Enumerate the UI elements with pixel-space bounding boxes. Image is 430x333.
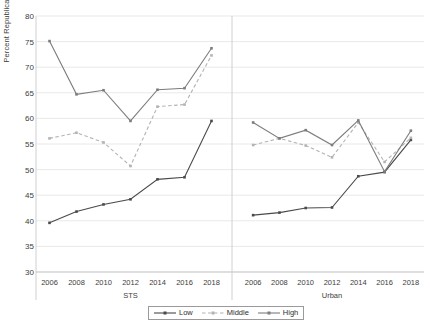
legend-label: Middle bbox=[227, 309, 249, 317]
data-point-middle bbox=[48, 137, 51, 140]
x-axis-tick-label: 2014 bbox=[149, 278, 166, 287]
data-point-low bbox=[331, 206, 334, 209]
data-point-middle bbox=[383, 161, 386, 164]
data-point-high bbox=[75, 93, 78, 96]
data-point-low bbox=[102, 203, 105, 206]
x-axis-tick-label: 2012 bbox=[324, 278, 341, 287]
legend-item-middle[interactable]: Middle bbox=[202, 309, 249, 317]
data-point-high bbox=[278, 137, 281, 140]
x-axis-tick-label: 2006 bbox=[245, 278, 262, 287]
data-point-low bbox=[210, 120, 213, 123]
x-axis-tick-label: 2006 bbox=[41, 278, 58, 287]
data-point-middle bbox=[252, 144, 255, 147]
data-point-high bbox=[252, 121, 255, 124]
x-axis-tick-label: 2018 bbox=[403, 278, 420, 287]
x-axis-tick-label: 2012 bbox=[122, 278, 139, 287]
series-line-high bbox=[50, 41, 212, 121]
data-point-middle bbox=[102, 141, 105, 144]
legend-swatch-middle-icon bbox=[202, 309, 224, 317]
x-axis-tick-label: 2008 bbox=[271, 278, 288, 287]
panel-title-sts: STS bbox=[123, 291, 138, 300]
data-point-high bbox=[304, 129, 307, 132]
data-point-high bbox=[383, 170, 386, 173]
legend-label: High bbox=[283, 309, 298, 317]
data-point-middle bbox=[129, 165, 132, 168]
legend-item-low[interactable]: Low bbox=[154, 309, 193, 317]
series-line-low bbox=[253, 140, 411, 215]
panel-title-urban: Urban bbox=[322, 291, 342, 300]
data-point-high bbox=[357, 119, 360, 122]
x-axis-tick-label: 2010 bbox=[297, 278, 314, 287]
legend-item-high[interactable]: High bbox=[258, 309, 298, 317]
data-point-middle bbox=[304, 144, 307, 147]
data-point-middle bbox=[410, 137, 413, 140]
data-point-high bbox=[102, 89, 105, 92]
data-point-low bbox=[357, 175, 360, 178]
x-axis-tick-label: 2014 bbox=[350, 278, 367, 287]
series-line-middle bbox=[253, 123, 411, 162]
data-point-low bbox=[156, 178, 159, 181]
x-axis-tick-label: 2016 bbox=[176, 278, 193, 287]
x-axis-tick-label: 2010 bbox=[95, 278, 112, 287]
legend-swatch-low-icon bbox=[154, 309, 176, 317]
data-point-middle bbox=[331, 156, 334, 159]
data-point-high bbox=[183, 87, 186, 90]
data-point-high bbox=[410, 129, 413, 132]
chart-legend: LowMiddleHigh bbox=[148, 306, 304, 320]
x-axis-tick-label: 2008 bbox=[68, 278, 85, 287]
series-line-middle bbox=[50, 55, 212, 166]
legend-label: Low bbox=[179, 309, 193, 317]
x-axis-tick-label: 2016 bbox=[376, 278, 393, 287]
data-point-low bbox=[252, 214, 255, 217]
data-point-low bbox=[75, 210, 78, 213]
data-point-low bbox=[278, 211, 281, 214]
data-point-high bbox=[48, 40, 51, 43]
data-point-high bbox=[156, 88, 159, 91]
x-axis-tick-label: 2018 bbox=[203, 278, 220, 287]
data-point-middle bbox=[183, 103, 186, 106]
data-point-low bbox=[129, 198, 132, 201]
data-point-middle bbox=[210, 54, 213, 57]
data-point-high bbox=[331, 144, 334, 147]
data-point-low bbox=[48, 222, 51, 225]
chart-container: Percent Republican Identifiers 303540455… bbox=[0, 0, 430, 333]
data-point-low bbox=[304, 207, 307, 210]
data-point-high bbox=[210, 47, 213, 50]
legend-swatch-high-icon bbox=[258, 309, 280, 317]
data-point-high bbox=[129, 120, 132, 123]
data-point-low bbox=[183, 176, 186, 179]
data-point-middle bbox=[156, 105, 159, 108]
series-line-low bbox=[50, 121, 212, 223]
data-point-middle bbox=[75, 131, 78, 134]
